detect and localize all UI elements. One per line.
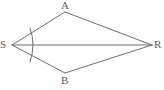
edge-s-a	[12, 12, 65, 45]
vertex-label-a: A	[61, 0, 69, 11]
vertex-label-s: S	[0, 39, 6, 50]
edge-b-s	[12, 45, 65, 73]
geometry-figure: A R B S	[0, 0, 164, 90]
geometry-canvas	[0, 0, 164, 90]
vertex-label-r: R	[154, 39, 161, 50]
vertex-label-b: B	[61, 75, 68, 86]
edge-a-r	[65, 12, 152, 45]
edge-r-b	[65, 45, 152, 73]
